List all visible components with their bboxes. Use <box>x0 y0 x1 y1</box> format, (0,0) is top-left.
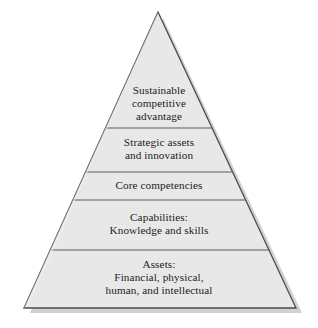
tier-5-line-3: human, and intellectual <box>0 284 318 297</box>
tier-2-line-2: and innovation <box>0 149 318 162</box>
tier-label-capabilities-knowledge-and-skills: Capabilities: Knowledge and skills <box>0 211 318 237</box>
tier-1-line-2: competitive <box>0 97 318 110</box>
tier-4-line-1: Capabilities: <box>0 211 318 224</box>
tier-label-core-competencies: Core competencies <box>0 179 318 192</box>
tier-label-assets-financial-physical-human-intellectual: Assets: Financial, physical, human, and … <box>0 258 318 298</box>
tier-2-line-1: Strategic assets <box>0 136 318 149</box>
tier-1-line-1: Sustainable <box>0 84 318 97</box>
tier-label-strategic-assets-and-innovation: Strategic assets and innovation <box>0 136 318 162</box>
tier-4-line-2: Knowledge and skills <box>0 224 318 237</box>
pyramid-diagram: Sustainable competitive advantage Strate… <box>0 0 318 328</box>
tier-5-line-1: Assets: <box>0 258 318 271</box>
tier-5-line-2: Financial, physical, <box>0 271 318 284</box>
tier-1-line-3: advantage <box>0 110 318 123</box>
tier-3-line-1: Core competencies <box>0 179 318 192</box>
tier-label-sustainable-competitive-advantage: Sustainable competitive advantage <box>0 84 318 124</box>
